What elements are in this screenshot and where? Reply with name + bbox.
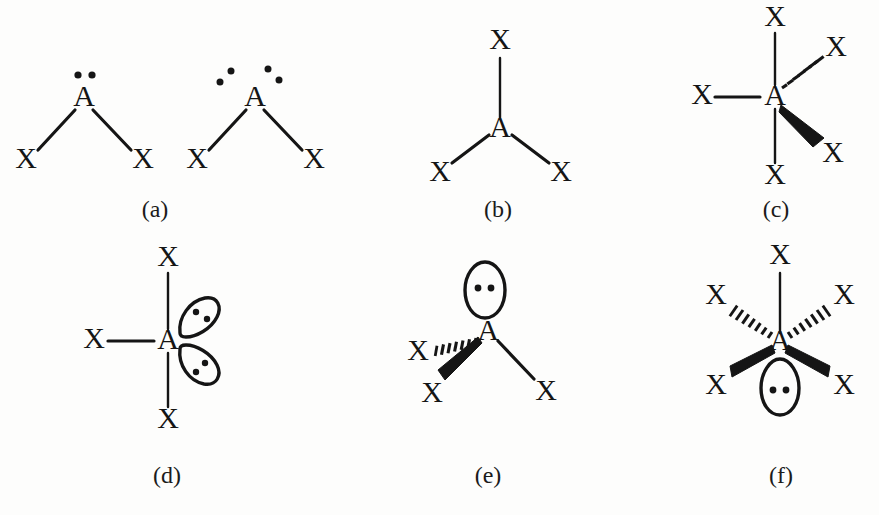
terminal-atom-label: X xyxy=(705,277,727,310)
panel-b: X A X X xyxy=(420,20,580,190)
terminal-atom-label: X xyxy=(833,277,855,310)
terminal-atom-label: X xyxy=(550,154,572,187)
lone-pair-dot xyxy=(193,369,199,375)
caption-b: (b) xyxy=(458,196,538,223)
lone-pair-dot xyxy=(204,316,210,322)
lone-pair-dot xyxy=(228,68,235,75)
lone-pair-dot xyxy=(202,360,208,366)
panel-c: X X X X X A xyxy=(680,5,870,190)
caption-a: (a) xyxy=(115,196,195,223)
bond-line-left xyxy=(209,110,246,150)
center-atom-label: A xyxy=(489,110,511,143)
panel-a: A X X A X X xyxy=(0,55,350,190)
terminal-atom-label: X xyxy=(769,237,791,270)
center-atom-label: A xyxy=(73,79,95,112)
hashed-wedge-upper-left xyxy=(730,306,772,338)
lone-pair-dot xyxy=(88,71,95,78)
structure-b: X A X X xyxy=(429,22,572,187)
structure-a1: A X X xyxy=(15,71,154,173)
bond-line-lower-right xyxy=(498,341,534,379)
center-atom-label: A xyxy=(769,323,791,356)
lone-pair-dot xyxy=(276,77,283,84)
caption-f: (f) xyxy=(741,462,821,489)
structure-d: X X X A xyxy=(83,239,219,434)
hashed-wedge-upper-right xyxy=(788,306,830,338)
terminal-atom-label: X xyxy=(833,367,855,400)
panel-d: X X X A xyxy=(60,245,260,435)
hashed-wedge-upper-right xyxy=(782,56,824,88)
solid-wedge-lower-left xyxy=(438,337,482,380)
terminal-atom-label: X xyxy=(764,157,786,190)
terminal-atom-label: X xyxy=(705,367,727,400)
terminal-atom-label: X xyxy=(421,375,443,408)
terminal-atom-label: X xyxy=(186,141,208,174)
lone-pair-dot xyxy=(193,309,199,315)
caption-e: (e) xyxy=(448,462,528,489)
bond-line-right xyxy=(93,110,131,150)
terminal-atom-label: X xyxy=(825,29,847,62)
center-atom-label: A xyxy=(157,322,179,355)
structure-f: X X X X X A xyxy=(705,237,855,415)
bond-line-lower-right xyxy=(512,135,549,163)
terminal-atom-label: X xyxy=(822,135,844,168)
lone-pair-dot xyxy=(488,285,495,292)
lone-pair-lobe-above xyxy=(465,262,505,318)
center-atom-label: A xyxy=(477,313,499,346)
lone-pair-dot xyxy=(217,79,224,86)
lone-pair-dot xyxy=(475,285,482,292)
bond-line-left xyxy=(38,110,75,150)
terminal-atom-label: X xyxy=(303,141,325,174)
bond-line-lower-left xyxy=(452,135,489,163)
caption-d: (d) xyxy=(127,462,207,489)
solid-wedge-lower-right xyxy=(785,345,830,377)
vsepr-geometry-figure: A X X A X X X xyxy=(0,0,879,515)
bond-line-right xyxy=(264,110,302,150)
terminal-atom-label: X xyxy=(157,239,179,272)
terminal-atom-label: X xyxy=(535,373,557,406)
terminal-atom-label: X xyxy=(764,0,786,32)
lone-pair-dot xyxy=(783,387,790,394)
center-atom-label: A xyxy=(244,79,266,112)
lone-pair-lobe-below xyxy=(761,359,799,415)
lone-pair-lobe-lower xyxy=(180,345,219,384)
terminal-atom-label: X xyxy=(157,401,179,434)
lone-pair-dot xyxy=(74,71,81,78)
structure-e: A X X X xyxy=(407,262,557,408)
terminal-atom-label: X xyxy=(132,141,154,174)
lone-pair-dot xyxy=(770,387,777,394)
caption-c: (c) xyxy=(736,196,816,223)
terminal-atom-label: X xyxy=(15,141,37,174)
terminal-atom-label: X xyxy=(429,154,451,187)
terminal-atom-label: X xyxy=(691,77,713,110)
terminal-atom-label: X xyxy=(407,333,429,366)
terminal-atom-label: X xyxy=(83,321,105,354)
lone-pair-dot xyxy=(265,66,272,73)
solid-wedge-lower-right xyxy=(779,105,824,147)
lone-pair-lobe-upper xyxy=(180,298,219,337)
panel-e: A X X X xyxy=(390,245,590,435)
center-atom-label: A xyxy=(764,78,786,111)
structure-a2: A X X xyxy=(186,66,325,174)
terminal-atom-label: X xyxy=(489,22,511,55)
panel-f: X X X X X A xyxy=(680,235,879,435)
structure-c: X X X X X A xyxy=(691,0,847,190)
